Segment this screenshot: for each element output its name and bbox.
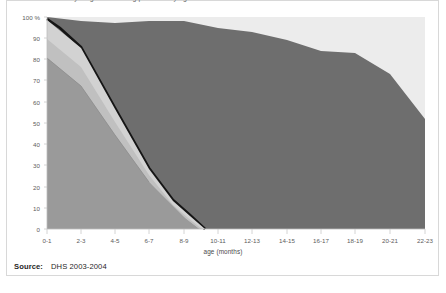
source-note: Source:DHS 2003-2004	[14, 262, 107, 271]
chart-area: 100 % 90 80 70 60 50 40 30 20 10 0 0-1 2…	[0, 0, 446, 293]
x-axis-title: age (months)	[0, 248, 446, 255]
y-tick-label-50: 50	[14, 120, 40, 127]
x-tick-label-18-19: 18-19	[338, 237, 372, 244]
x-tick-label-0-1: 0-1	[30, 237, 64, 244]
x-tick-label-4-5: 4-5	[98, 237, 132, 244]
source-label: Source:	[14, 262, 43, 271]
x-tick-label-12-13: 12-13	[235, 237, 269, 244]
y-axis-unit-label: 100 %	[14, 14, 40, 21]
y-tick-label-0: 0	[14, 226, 40, 233]
y-tick-label-30: 30	[14, 162, 40, 169]
x-tick-marks	[47, 229, 425, 234]
y-tick-label-90: 90	[14, 35, 40, 42]
y-tick-label-80: 80	[14, 56, 40, 63]
x-tick-label-2-3: 2-3	[64, 237, 98, 244]
x-tick-label-14-15: 14-15	[270, 237, 304, 244]
y-tick-label-10: 10	[14, 205, 40, 212]
y-tick-label-60: 60	[14, 99, 40, 106]
x-tick-label-22-23: 22-23	[408, 237, 442, 244]
y-tick-label-70: 70	[14, 77, 40, 84]
screenshot-root: Infant and young child feeding practices…	[0, 0, 446, 293]
y-tick-marks	[44, 17, 47, 229]
y-tick-label-20: 20	[14, 184, 40, 191]
source-value: DHS 2003-2004	[51, 262, 107, 271]
x-tick-label-16-17: 16-17	[304, 237, 338, 244]
x-tick-label-20-21: 20-21	[373, 237, 407, 244]
y-tick-label-40: 40	[14, 141, 40, 148]
x-tick-label-6-7: 6-7	[132, 237, 166, 244]
x-tick-label-8-9: 8-9	[167, 237, 201, 244]
x-tick-label-10-11: 10-11	[201, 237, 235, 244]
